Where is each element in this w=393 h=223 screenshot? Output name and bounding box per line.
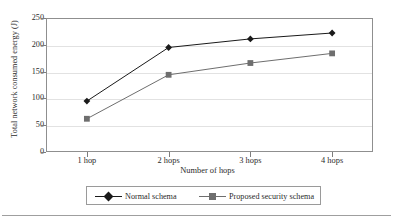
- x-tick-mark: [169, 152, 170, 157]
- legend: Normal schema Proposed security schema: [86, 186, 321, 205]
- data-point-diamond-icon: [329, 30, 336, 37]
- legend-label: Proposed security schema: [229, 192, 314, 201]
- data-point-square-icon: [247, 60, 253, 66]
- y-tick-mark: [41, 18, 46, 19]
- x-tick-mark: [250, 152, 251, 157]
- x-tick-label: 2 hops: [134, 156, 204, 165]
- data-point-diamond-icon: [165, 44, 172, 51]
- legend-item-proposed-security-schema: Proposed security schema: [199, 187, 314, 206]
- series-line: [87, 33, 332, 101]
- y-tick-mark: [41, 152, 46, 153]
- data-point-diamond-icon: [83, 98, 90, 105]
- y-tick-label: 250: [4, 14, 44, 22]
- data-point-square-icon: [166, 72, 172, 78]
- data-point-diamond-icon: [247, 36, 254, 43]
- x-tick-label: 4 hops: [297, 156, 367, 165]
- y-tick-label: 0: [4, 148, 44, 156]
- chart-figure: Total network consumed energy (J) Number…: [0, 0, 393, 223]
- y-axis-title: Total network consumed energy (J): [10, 4, 24, 154]
- footer-rule: [2, 215, 391, 216]
- data-point-square-icon: [84, 116, 90, 122]
- y-tick-mark: [41, 125, 46, 126]
- y-tick-label: 100: [4, 94, 44, 102]
- y-tick-label: 200: [4, 41, 44, 49]
- data-point-square-icon: [329, 50, 335, 56]
- series-line: [87, 53, 332, 118]
- y-tick-label: 50: [4, 121, 44, 129]
- y-tick-label: 150: [4, 68, 44, 76]
- x-tick-mark: [87, 152, 88, 157]
- series-layer: [46, 18, 373, 152]
- legend-marker-diamond-icon: [95, 192, 122, 201]
- y-tick-mark: [41, 98, 46, 99]
- x-tick-mark: [332, 152, 333, 157]
- x-axis-title: Number of hops: [40, 166, 375, 175]
- x-tick-label: 3 hops: [215, 156, 285, 165]
- y-tick-mark: [41, 72, 46, 73]
- legend-label: Normal schema: [125, 192, 177, 201]
- x-tick-label: 1 hop: [52, 156, 122, 165]
- legend-item-normal-schema: Normal schema: [95, 187, 177, 206]
- y-tick-mark: [41, 45, 46, 46]
- legend-marker-square-icon: [199, 192, 226, 201]
